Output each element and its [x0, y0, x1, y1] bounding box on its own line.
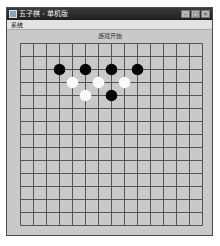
window-controls: – □ ×: [181, 10, 210, 18]
white-stone: [93, 77, 105, 89]
black-stone: [54, 64, 66, 76]
black-stone: [132, 64, 144, 76]
white-stone: [119, 77, 131, 89]
white-stone: [80, 90, 92, 102]
app-icon: [9, 10, 17, 18]
white-stone: [67, 77, 79, 89]
minimize-button[interactable]: –: [181, 10, 190, 18]
status-label: 游戏开始: [7, 32, 212, 40]
board-grid[interactable]: [20, 43, 206, 229]
black-stone: [106, 90, 118, 102]
black-stone: [80, 64, 92, 76]
title-bar[interactable]: 五子棋 - 单机版 – □ ×: [7, 8, 212, 20]
game-window: 五子棋 - 单机版 – □ × 系统 游戏开始: [6, 7, 213, 236]
menu-system[interactable]: 系统: [11, 20, 23, 29]
window-title: 五子棋 - 单机版: [19, 9, 68, 19]
menu-bar: 系统: [7, 20, 212, 30]
maximize-button[interactable]: □: [191, 10, 200, 18]
gomoku-board[interactable]: [20, 43, 206, 229]
black-stone: [106, 64, 118, 76]
close-button[interactable]: ×: [201, 10, 210, 18]
